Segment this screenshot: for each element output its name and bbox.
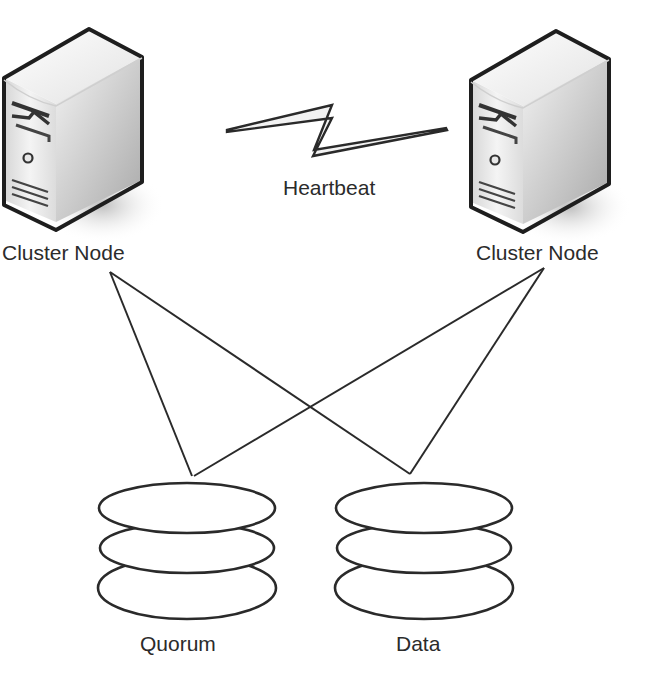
server-icon-right[interactable]	[471, 31, 631, 245]
quorum-disk-icon[interactable]	[98, 483, 276, 619]
connection-lines	[110, 268, 544, 476]
link-left-node-quorum	[110, 272, 192, 476]
lightning-bolt-icon	[227, 105, 447, 156]
link-left-node-data	[110, 272, 410, 474]
data-disk-icon[interactable]	[335, 483, 513, 619]
link-right-node-data	[410, 268, 544, 474]
server-icon-left[interactable]	[4, 29, 164, 243]
link-right-node-quorum	[194, 268, 544, 476]
data-label: Data	[396, 632, 440, 656]
quorum-label: Quorum	[140, 632, 216, 656]
cluster-node-label-right: Cluster Node	[476, 241, 599, 265]
heartbeat-label: Heartbeat	[283, 176, 375, 200]
cluster-node-label-left: Cluster Node	[2, 241, 125, 265]
